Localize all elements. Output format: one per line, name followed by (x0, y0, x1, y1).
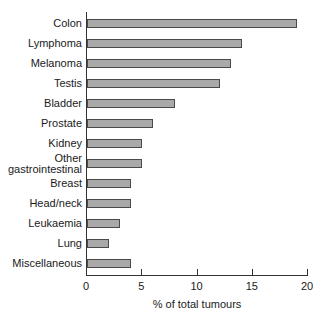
category-label: Othergastrointestinal (8, 153, 82, 175)
category-label-line: Other (8, 153, 82, 164)
bar (87, 259, 131, 268)
x-axis-title: % of total tumours (86, 298, 308, 310)
category-label: Prostate (41, 118, 82, 129)
bar (87, 139, 142, 148)
category-label-line: Kidney (48, 138, 82, 149)
category-label: Testis (54, 78, 82, 89)
category-label-line: Prostate (41, 118, 82, 129)
x-tick (307, 269, 308, 275)
bar (87, 59, 231, 68)
bar (87, 79, 220, 88)
category-label: Bladder (44, 98, 82, 109)
category-label-line: Colon (53, 18, 82, 29)
category-label: Leukaemia (28, 218, 82, 229)
category-label-line: Leukaemia (28, 218, 82, 229)
category-label-line: Melanoma (31, 58, 82, 69)
category-label-line: Miscellaneous (12, 258, 82, 269)
category-label-line: gastrointestinal (8, 164, 82, 175)
category-label: Lung (58, 238, 82, 249)
x-tick-label: 10 (182, 280, 212, 292)
category-label-line: Bladder (44, 98, 82, 109)
x-tick-label: 0 (71, 280, 101, 292)
bar (87, 179, 131, 188)
category-label-line: Breast (50, 178, 82, 189)
category-label-line: Head/neck (29, 198, 82, 209)
x-tick-label: 20 (292, 280, 321, 292)
category-label: Melanoma (31, 58, 82, 69)
x-axis-line (86, 275, 308, 276)
bar (87, 159, 142, 168)
bar (87, 239, 109, 248)
bar (87, 19, 297, 28)
x-tick-label: 5 (126, 280, 156, 292)
category-label: Breast (50, 178, 82, 189)
category-label-line: Lung (58, 238, 82, 249)
horizontal-bar-chart: ColonLymphomaMelanomaTestisBladderProsta… (0, 0, 321, 317)
category-label: Kidney (48, 138, 82, 149)
x-tick (252, 269, 253, 275)
bar (87, 99, 175, 108)
x-tick (197, 269, 198, 275)
category-label: Colon (53, 18, 82, 29)
x-tick (141, 269, 142, 275)
category-label: Lymphoma (28, 38, 82, 49)
bar (87, 219, 120, 228)
bar (87, 199, 131, 208)
category-label-line: Testis (54, 78, 82, 89)
category-label: Head/neck (29, 198, 82, 209)
bar (87, 39, 242, 48)
bar (87, 119, 153, 128)
category-label-line: Lymphoma (28, 38, 82, 49)
category-label: Miscellaneous (12, 258, 82, 269)
x-tick-label: 15 (237, 280, 267, 292)
